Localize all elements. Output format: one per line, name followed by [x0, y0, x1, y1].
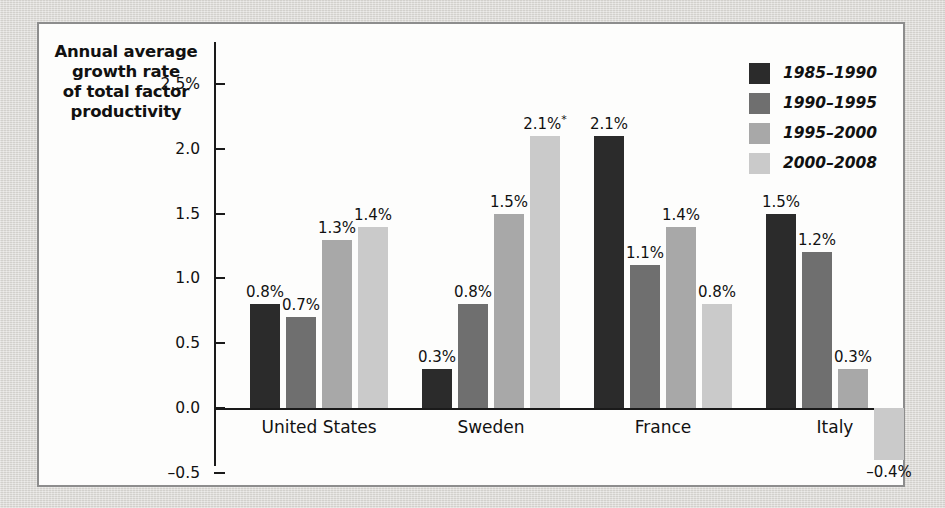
- y-axis-tick: [214, 277, 225, 279]
- y-axis-tick-label: 0.5: [136, 334, 200, 352]
- legend: 1985–19901990–19951995–20002000–2008: [749, 60, 877, 180]
- y-axis-tick-label: 2.0: [136, 140, 200, 158]
- legend-label: 1995–2000: [783, 124, 877, 142]
- bar: [358, 227, 388, 408]
- legend-item: 1990–1995: [749, 90, 877, 116]
- y-axis-tick: [214, 342, 225, 344]
- legend-item: 1995–2000: [749, 120, 877, 146]
- legend-label: 1985–1990: [783, 64, 877, 82]
- y-axis-tick: [214, 148, 225, 150]
- bar: [250, 304, 280, 408]
- legend-swatch-icon: [749, 153, 770, 174]
- footnote-asterisk: *: [561, 113, 567, 126]
- x-axis-group-label: United States: [219, 417, 419, 437]
- bar-value-label: 1.4%: [649, 206, 713, 224]
- legend-item: 1985–1990: [749, 60, 877, 86]
- bar: [494, 214, 524, 408]
- zero-baseline: [214, 408, 904, 410]
- bar-value-label: 1.2%: [785, 231, 849, 249]
- bar: [422, 369, 452, 408]
- y-axis-tick: [214, 407, 225, 409]
- y-axis-tick-label: 0.0: [136, 399, 200, 417]
- y-axis-tick: [214, 83, 225, 85]
- y-axis-tick-label: –0.5: [136, 464, 200, 482]
- legend-label: 1990–1995: [783, 94, 877, 112]
- y-axis-tick-label: 1.5: [136, 205, 200, 223]
- y-axis-title-line-4: productivity: [41, 102, 211, 122]
- legend-label: 2000–2008: [783, 154, 877, 172]
- x-axis-group-label: France: [563, 417, 763, 437]
- x-axis-group-label: Sweden: [391, 417, 591, 437]
- y-axis-title-line-1: Annual average: [41, 42, 211, 62]
- bar-value-label: 1.4%: [341, 206, 405, 224]
- x-axis-group-label: Italy: [735, 417, 935, 437]
- bar: [630, 265, 660, 408]
- legend-swatch-icon: [749, 123, 770, 144]
- bar-value-label: 2.1%*: [513, 115, 577, 133]
- y-axis-tick: [214, 213, 225, 215]
- bar: [594, 136, 624, 408]
- bar-value-label: 0.8%: [685, 283, 749, 301]
- y-axis-tick: [214, 472, 225, 474]
- bar: [702, 304, 732, 408]
- legend-swatch-icon: [749, 93, 770, 114]
- y-axis-tick-label: 1.0: [136, 269, 200, 287]
- y-axis-line: [214, 42, 216, 466]
- bar: [322, 240, 352, 408]
- bar: [838, 369, 868, 408]
- bar: [530, 136, 560, 408]
- bar: [802, 252, 832, 408]
- figure-panel: Annual average growth rate of total fact…: [37, 22, 905, 487]
- legend-swatch-icon: [749, 63, 770, 84]
- bar: [666, 227, 696, 408]
- y-axis-tick-label: 2.5%: [136, 75, 200, 93]
- bar-value-label: –0.4%: [857, 463, 921, 481]
- bar: [458, 304, 488, 408]
- bar: [286, 317, 316, 408]
- bar-value-label: 0.3%: [821, 348, 885, 366]
- bar-value-label: 2.1%: [577, 115, 641, 133]
- bar-chart: Annual average growth rate of total fact…: [39, 24, 903, 485]
- bar-value-label: 1.5%: [749, 193, 813, 211]
- legend-item: 2000–2008: [749, 150, 877, 176]
